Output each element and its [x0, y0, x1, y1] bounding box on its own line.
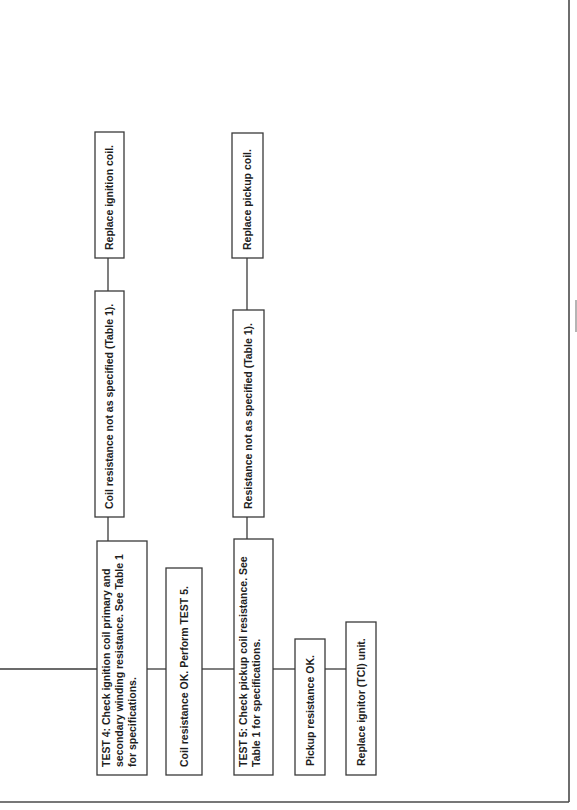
node-coil-ok: Coil resistance OK. Perform TEST 5. — [166, 568, 202, 775]
node-test4-line-2: secondary winding resistance. See Table … — [113, 554, 125, 767]
node-test5-line-2: Table 1 for specifications. — [250, 639, 262, 767]
node-test4: TEST 4: Check ignition coil primary and … — [97, 541, 147, 775]
node-replace-ignition-coil: Replace ignition coil. — [95, 132, 124, 258]
node-test4-line-1: TEST 4: Check ignition coil primary and — [100, 569, 112, 767]
node-replace-ignitor-label: Replace ignitor (TCI) unit. — [355, 638, 367, 766]
node-pickup-ok-label: Pickup resistance OK. — [304, 655, 316, 766]
svg-text:Coil resistance not as specifi: Coil resistance not as specified (Table … — [103, 304, 115, 509]
node-replace-pickup-coil-label: Replace pickup coil. — [241, 149, 253, 250]
svg-text:Replace pickup coil.: Replace pickup coil. — [241, 149, 253, 250]
svg-text:Coil resistance OK. Perform TE: Coil resistance OK. Perform TEST 5. — [178, 586, 190, 767]
node-replace-ignitor: Replace ignitor (TCI) unit. — [346, 622, 376, 775]
node-resistance-not-spec-label: Resistance not as specified (Table 1). — [242, 323, 254, 509]
flowchart-canvas: TEST 4: Check ignition coil primary and … — [0, 0, 577, 810]
node-pickup-ok: Pickup resistance OK. — [295, 639, 325, 775]
node-replace-ignition-coil-label: Replace ignition coil. — [103, 145, 115, 250]
node-coil-not-spec-label: Coil resistance not as specified (Table … — [103, 304, 115, 509]
node-coil-ok-label: Coil resistance OK. Perform TEST 5. — [178, 586, 190, 767]
node-test5: TEST 5: Check pickup coil resistance. Se… — [234, 539, 273, 775]
node-test4-line-3: for specifications. — [126, 677, 138, 767]
svg-text:Replace ignitor (TCI) unit.: Replace ignitor (TCI) unit. — [355, 638, 367, 766]
svg-text:Resistance not as specified (T: Resistance not as specified (Table 1). — [242, 323, 254, 509]
svg-text:Pickup resistance OK.: Pickup resistance OK. — [304, 655, 316, 766]
node-test5-line-1: TEST 5: Check pickup coil resistance. Se… — [237, 556, 249, 767]
node-replace-pickup-coil: Replace pickup coil. — [232, 133, 263, 258]
node-coil-not-spec: Coil resistance not as specified (Table … — [95, 291, 124, 517]
node-resistance-not-spec: Resistance not as specified (Table 1). — [233, 310, 264, 517]
svg-text:Replace ignition coil.: Replace ignition coil. — [103, 145, 115, 250]
